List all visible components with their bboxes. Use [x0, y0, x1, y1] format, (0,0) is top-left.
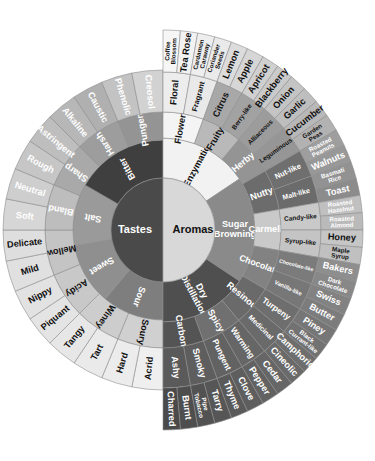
flavor-wheel-figure: SourSweetSaltBitterSouryWineyAcidyMellow… — [0, 0, 375, 461]
segment-label: Charred — [166, 391, 178, 427]
segment-label: Honey — [328, 232, 357, 243]
segment-label: MapleSyrup — [331, 245, 351, 261]
segment-label: CoffeeBlossom — [163, 37, 177, 64]
wheel-center: TastesAromas — [111, 178, 215, 282]
flavor-wheel-svg: SourSweetSaltBitterSouryWineyAcidyMellow… — [0, 0, 375, 461]
segment-label: Ashy — [170, 356, 182, 380]
center-label-aromas: Aromas — [173, 223, 214, 235]
segment-label: Soft — [15, 210, 34, 222]
center-label-tastes: Tastes — [118, 223, 152, 235]
segment-label: RoastedAlmond — [329, 214, 354, 228]
